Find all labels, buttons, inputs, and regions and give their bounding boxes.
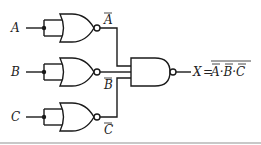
- output-lhs: X: [192, 65, 202, 79]
- output-expression: X = A·B·C: [192, 61, 251, 79]
- inversion-bubble: [94, 114, 100, 120]
- inversion-bubble: [94, 25, 100, 31]
- output-label-b-bar: B: [103, 78, 113, 92]
- output-label-a-bar: A: [103, 13, 113, 27]
- input-c-branch: C C: [11, 78, 131, 137]
- nor-gate-b: [60, 58, 94, 86]
- output-label-c-bar: C: [104, 123, 113, 137]
- inversion-bubble: [170, 69, 176, 75]
- inversion-bubble: [94, 69, 100, 75]
- input-label-a: A: [10, 21, 20, 35]
- logic-diagram: A A B B C C: [0, 0, 261, 145]
- nand-gate-final: [131, 58, 191, 86]
- nor-gate-a: [60, 14, 94, 42]
- input-b-branch: B B: [10, 58, 131, 92]
- output-expression-text: A·B·C: [210, 65, 245, 79]
- nor-gate-c: [60, 103, 94, 131]
- input-label-c: C: [11, 110, 20, 124]
- bottom-rule: [0, 142, 261, 144]
- input-label-b: B: [10, 65, 20, 79]
